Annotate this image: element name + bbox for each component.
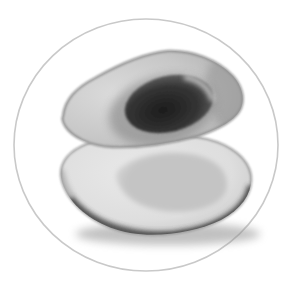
avocado-photo-stage	[0, 0, 298, 285]
avocado-photo	[0, 0, 298, 285]
